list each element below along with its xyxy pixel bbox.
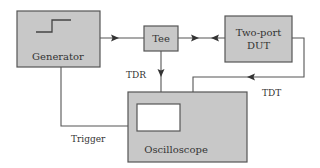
generator-label: Generator bbox=[32, 51, 84, 62]
generator-block: Generator bbox=[17, 11, 100, 67]
tee-dut-connection bbox=[178, 35, 225, 42]
oscilloscope-block: Oscilloscope bbox=[128, 92, 247, 162]
trigger-label: Trigger bbox=[71, 134, 106, 144]
tdt-label: TDT bbox=[262, 88, 281, 98]
dut-label-line2: DUT bbox=[247, 40, 270, 51]
tdr-connection: TDR bbox=[126, 51, 165, 92]
trigger-connection: Trigger bbox=[61, 67, 128, 144]
tdr-tdt-setup-diagram: Generator Tee Two-port DUT Oscilloscope … bbox=[0, 0, 320, 168]
tdr-label: TDR bbox=[126, 70, 146, 80]
dut-label-line1: Two-port bbox=[236, 27, 282, 38]
dut-box bbox=[225, 16, 292, 62]
dut-block: Two-port DUT bbox=[225, 16, 292, 62]
oscilloscope-label: Oscilloscope bbox=[144, 144, 208, 155]
generator-to-tee-connection bbox=[100, 35, 144, 42]
oscilloscope-screen bbox=[137, 104, 180, 131]
tee-block: Tee bbox=[144, 26, 178, 51]
tee-label: Tee bbox=[152, 33, 170, 44]
